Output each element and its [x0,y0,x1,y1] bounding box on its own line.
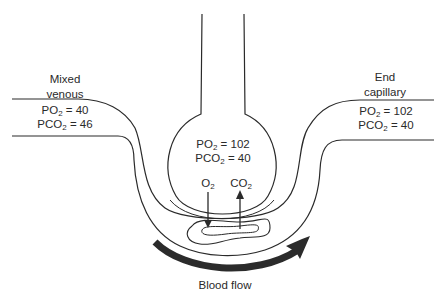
co2-label: CO2 [228,176,254,191]
co2-arrowhead [236,190,244,199]
mixed-venous-label-line2: venous [40,87,90,102]
co2-prefix: CO [230,177,247,189]
mixed-venous-po2: PO2 = 40 [30,103,100,118]
end-capillary-po2: PO2 = 102 [348,104,424,119]
co2-sub: 2 [247,182,251,191]
end-capillary-label: End capillary [355,70,415,100]
pco2-prefix: PCO [358,119,383,131]
o2-prefix: O [201,177,210,189]
pco2-prefix: PCO [195,152,220,164]
po2-prefix: PO [196,138,213,150]
pco2-value: = 40 [225,152,251,164]
pco2-value: = 46 [67,118,93,130]
end-capillary-label-line2: capillary [355,85,415,100]
red-blood-cell-outer [187,219,270,244]
o2-label: O2 [198,176,218,191]
mixed-venous-pco2: PCO2 = 46 [30,117,100,132]
pco2-prefix: PCO [37,118,62,130]
alveolus-outline [168,14,276,214]
alveolus-po2: PO2 = 102 [186,137,260,152]
pco2-value: = 40 [388,119,414,131]
po2-prefix: PO [359,105,376,117]
end-capillary-pco2: PCO2 = 40 [348,118,424,133]
po2-prefix: PO [42,104,59,116]
end-capillary-label-line1: End [355,70,415,85]
po2-value: = 102 [217,138,249,150]
mixed-venous-label: Mixed venous [40,72,90,102]
po2-value: = 102 [380,105,412,117]
po2-value: = 40 [63,104,89,116]
alveolus-pco2: PCO2 = 40 [186,151,260,166]
red-blood-cell-inner [202,225,259,235]
mixed-venous-label-line1: Mixed [40,72,90,87]
o2-sub: 2 [210,182,214,191]
blood-flow-label: Blood flow [190,278,260,293]
